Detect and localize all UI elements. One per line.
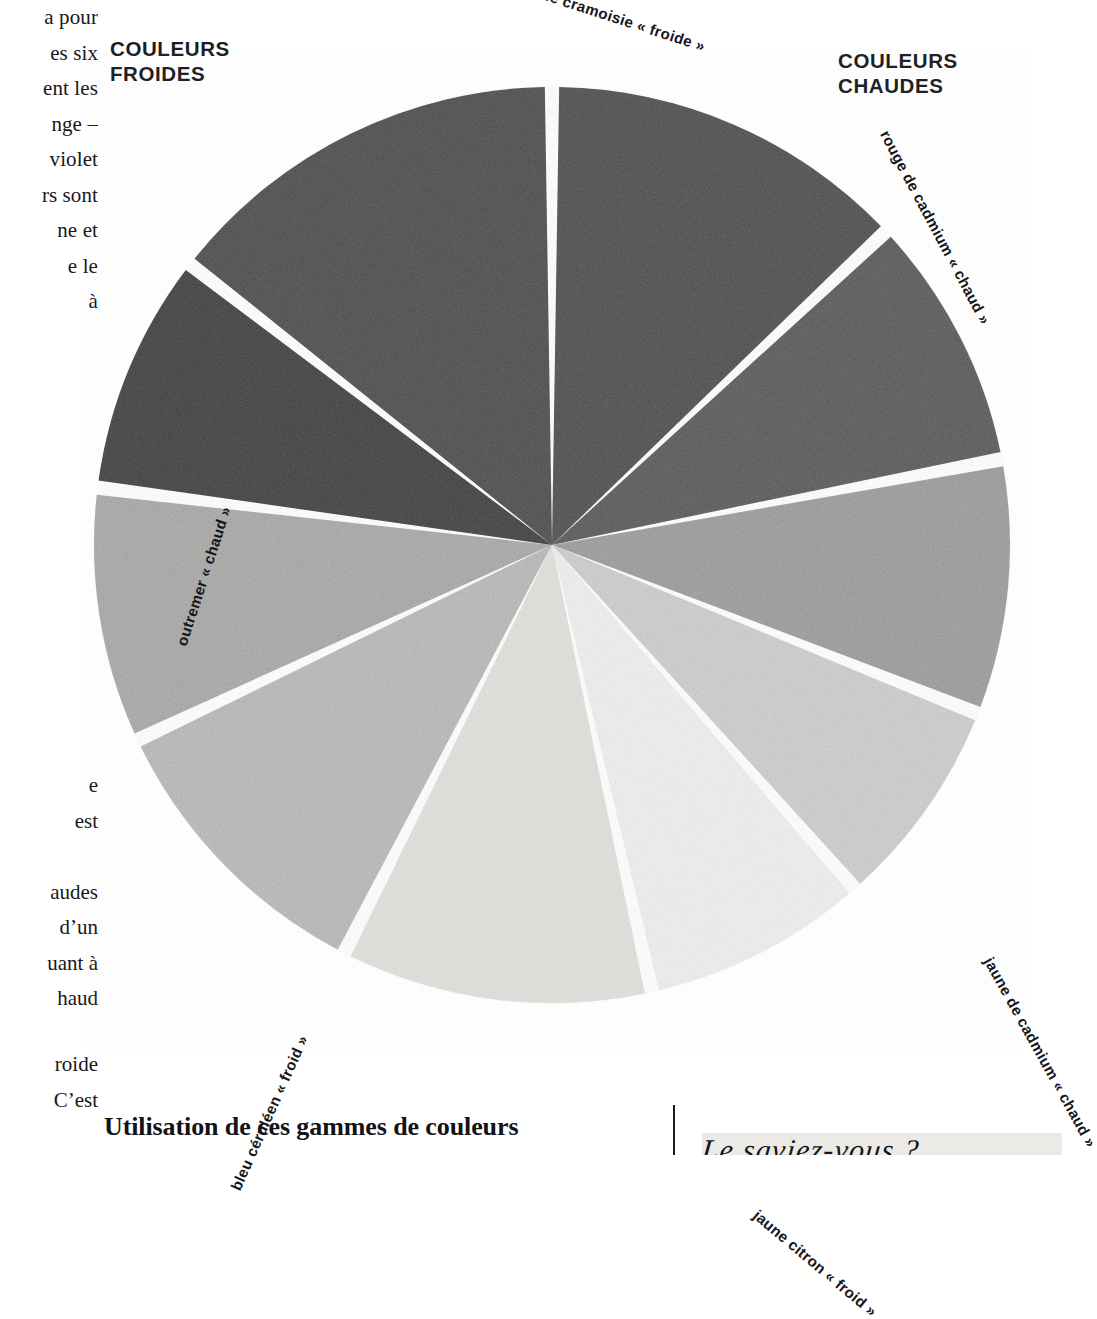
body-text-line: ne et <box>0 213 98 249</box>
sidebar-note-le-saviez-vous: Le saviez-vous ? <box>702 1133 1062 1155</box>
body-text-line: a pour <box>0 0 98 36</box>
sidebar-note-text: Le saviez-vous ? <box>702 1133 1062 1155</box>
vertical-divider <box>673 1105 675 1155</box>
body-text-line: à <box>0 284 98 320</box>
body-text-line: est <box>0 804 98 840</box>
body-text-line: roide <box>0 1047 98 1083</box>
body-text-line: rs sont <box>0 178 98 214</box>
body-text-line: ent les <box>0 71 98 107</box>
body-text-column-bottom: roideC’est <box>0 1047 98 1118</box>
pie-slices <box>93 86 1011 1004</box>
color-wheel-figure: alizarine cramoisie « froide »rouge de c… <box>86 50 1026 1050</box>
label-alizarine-cramoisie: alizarine cramoisie « froide » <box>496 0 707 55</box>
label-jaune-de-cadmium: jaune de cadmium « chaud » <box>981 954 1097 1150</box>
body-text-line: nge – <box>0 107 98 143</box>
body-text-line: C’est <box>0 1083 98 1119</box>
body-text-column-middle: eest audesd’unuant àhaud <box>0 768 98 1017</box>
body-text-line: violet <box>0 142 98 178</box>
body-text-column-top: a poures sixent lesnge –violetrs sontne … <box>0 0 98 320</box>
body-text-line: es six <box>0 36 98 72</box>
body-text-line: e <box>0 768 98 804</box>
color-wheel-svg <box>86 50 1026 1050</box>
section-heading-utilisation: Utilisation de ces gammes de couleurs <box>104 1112 518 1142</box>
body-text-line <box>0 839 98 875</box>
body-text-line: d’un <box>0 910 98 946</box>
body-text-line: e le <box>0 249 98 285</box>
label-jaune-citron: jaune citron « froid » <box>750 1206 880 1319</box>
body-text-line: uant à <box>0 946 98 982</box>
body-text-line: audes <box>0 875 98 911</box>
body-text-line: haud <box>0 981 98 1017</box>
